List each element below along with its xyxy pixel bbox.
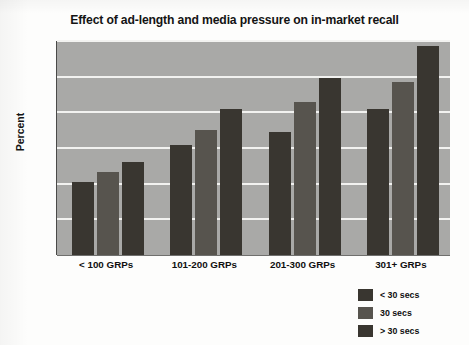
bar (170, 145, 192, 255)
legend-item: 30 secs (358, 305, 462, 321)
legend-swatch (358, 307, 373, 319)
bar (392, 82, 414, 255)
bar (122, 162, 144, 255)
x-axis-category-label: < 100 GRPs (57, 259, 155, 270)
legend-label: > 30 secs (380, 326, 419, 336)
bar-group (269, 41, 341, 255)
bar (367, 109, 389, 255)
bar (269, 132, 291, 255)
x-axis-category-label: 101-200 GRPs (155, 259, 253, 270)
y-axis-title: Percent (14, 92, 26, 172)
x-axis-category-label: 301+ GRPs (352, 259, 450, 270)
bar-chart-figure: Effect of ad-length and media pressure o… (0, 0, 469, 345)
chart-title: Effect of ad-length and media pressure o… (0, 13, 469, 27)
bar (72, 182, 94, 255)
bar (294, 102, 316, 255)
legend-swatch (358, 289, 373, 301)
bar (195, 130, 217, 255)
legend-label: 30 secs (380, 308, 412, 318)
bar-group (170, 41, 242, 255)
legend-swatch (358, 325, 373, 337)
legend-item: < 30 secs (358, 287, 462, 303)
legend-item: > 30 secs (358, 323, 462, 339)
bar (220, 109, 242, 255)
x-axis-line (57, 255, 450, 256)
bar (417, 46, 439, 255)
bar-group (72, 41, 144, 255)
legend-label: < 30 secs (380, 290, 419, 300)
plot-area: 051015202530 (57, 41, 450, 255)
bar (319, 78, 341, 255)
bar (97, 172, 119, 255)
bar-group (367, 41, 439, 255)
x-axis-category-label: 201-300 GRPs (254, 259, 352, 270)
chart-legend: < 30 secs30 secs> 30 secs (358, 287, 462, 341)
